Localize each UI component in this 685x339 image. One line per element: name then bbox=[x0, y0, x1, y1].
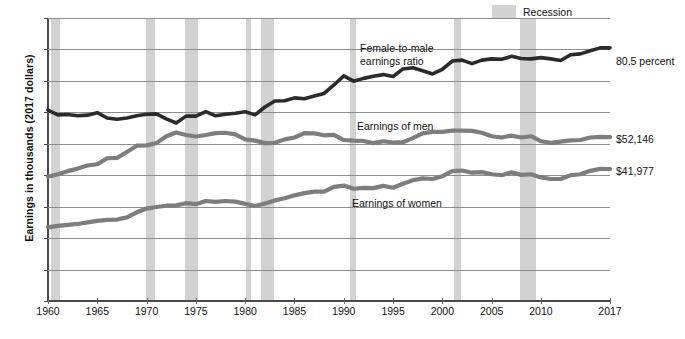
x-tick-mark bbox=[610, 298, 611, 304]
end-label-women: $41,977 bbox=[616, 165, 654, 177]
series-line-female-to-male-earnings-ratio bbox=[48, 48, 610, 123]
series-layer bbox=[48, 18, 610, 301]
ratio-label-line2: earnings ratio bbox=[360, 55, 434, 68]
series-line-earnings-of-men bbox=[48, 131, 610, 177]
x-tick-label: 2017 bbox=[580, 305, 640, 317]
ratio-label-line1: Female-to-male bbox=[360, 42, 434, 55]
recession-legend-swatch bbox=[492, 5, 516, 18]
ratio-label: Female-to-maleearnings ratio bbox=[360, 42, 434, 68]
women-label-line1: Earnings of women bbox=[352, 197, 442, 210]
women-label: Earnings of women bbox=[352, 197, 442, 210]
chart-legend: Recession bbox=[492, 5, 572, 18]
end-label-men: $52,146 bbox=[616, 133, 654, 145]
y-axis-title: Earnings in thousands (2017 dollars) bbox=[23, 23, 35, 273]
end-label-ratio: 80.5 percent bbox=[616, 55, 674, 67]
plot-area: 0102030405060708090196019651970197519801… bbox=[48, 18, 610, 301]
x-tick-label: 2010 bbox=[511, 305, 571, 317]
earnings-gender-gap-chart: Earnings in thousands (2017 dollars) Rec… bbox=[0, 0, 685, 339]
men-label: Earnings of men bbox=[357, 120, 433, 133]
series-line-earnings-of-women bbox=[48, 169, 610, 227]
recession-legend-label: Recession bbox=[523, 6, 572, 18]
men-label-line1: Earnings of men bbox=[357, 120, 433, 133]
